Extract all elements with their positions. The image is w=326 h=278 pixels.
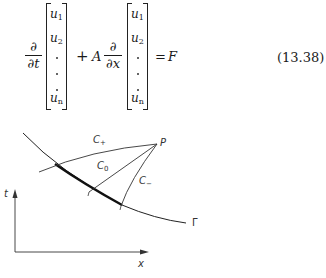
label-c-minus: C− — [139, 175, 152, 188]
x-axis-arrow-icon — [140, 250, 149, 255]
tick-mark — [120, 206, 121, 210]
label-t-axis: t — [4, 188, 8, 199]
t-axis-arrow-icon — [13, 189, 18, 198]
tick-mark — [88, 192, 89, 196]
label-c-plus: C+ — [93, 134, 106, 147]
label-c-zero: C0 — [97, 160, 108, 173]
label-point-p: P — [160, 137, 166, 148]
domain-of-dependence-segment — [55, 164, 122, 205]
label-gamma: Γ — [192, 217, 198, 228]
label-x-axis: x — [138, 258, 144, 269]
